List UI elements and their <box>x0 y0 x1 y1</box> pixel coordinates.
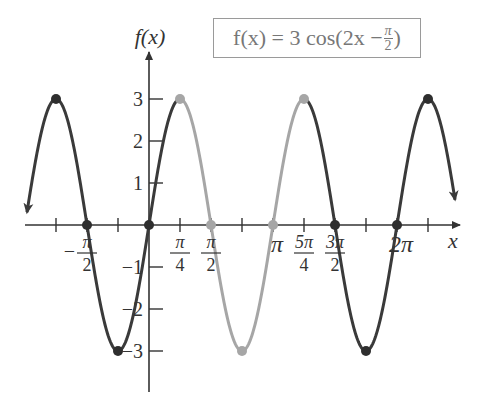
legend-formula-box: f(x) = 3 cos(2x − π 2 ) <box>213 18 421 58</box>
tick-labels: 321−1−2−3−π2π4π2π5π43π22πxf(x) <box>64 24 458 362</box>
x-tick-label: −π2 <box>64 232 97 275</box>
key-point <box>82 220 92 230</box>
legend-suffix: ) <box>394 25 401 51</box>
y-axis-label: f(x) <box>135 24 166 49</box>
legend-frac-num: π <box>384 24 393 39</box>
svg-text:3π: 3π <box>325 232 345 252</box>
svg-text:−: − <box>64 240 75 262</box>
key-point <box>206 220 216 230</box>
y-tick-label: 1 <box>133 172 143 194</box>
svg-text:4: 4 <box>300 255 309 275</box>
y-tick-label: −1 <box>122 256 143 278</box>
svg-text:2: 2 <box>207 255 216 275</box>
key-point <box>361 346 371 356</box>
svg-text:5π: 5π <box>295 232 314 252</box>
key-point <box>330 220 340 230</box>
svg-text:4: 4 <box>176 255 185 275</box>
y-tick-label: −2 <box>122 298 143 320</box>
legend-fraction: π 2 <box>384 24 393 53</box>
y-tick-label: −3 <box>122 340 143 362</box>
key-point <box>299 94 309 104</box>
key-point <box>51 94 61 104</box>
svg-text:π: π <box>206 232 216 252</box>
key-point <box>423 94 433 104</box>
x-axis-label: x <box>447 228 458 253</box>
x-tick-label: 2π <box>389 231 414 257</box>
y-tick-label: 2 <box>133 130 143 152</box>
y-tick-label: 3 <box>133 88 143 110</box>
key-point <box>268 220 278 230</box>
key-point <box>392 220 402 230</box>
legend-prefix: f(x) = 3 cos(2x − <box>233 25 382 51</box>
key-point <box>237 346 247 356</box>
key-point <box>144 220 154 230</box>
svg-text:2: 2 <box>331 255 340 275</box>
svg-text:2: 2 <box>83 255 92 275</box>
svg-text:π: π <box>175 232 185 252</box>
x-tick-label: 5π4 <box>294 232 314 275</box>
key-point <box>175 94 185 104</box>
x-tick-label: π4 <box>170 232 190 275</box>
x-tick-label: π <box>271 231 284 257</box>
cosine-chart: 321−1−2−3−π2π4π2π5π43π22πxf(x) <box>0 0 483 409</box>
svg-text:π: π <box>82 232 92 252</box>
legend-frac-den: 2 <box>385 39 392 53</box>
